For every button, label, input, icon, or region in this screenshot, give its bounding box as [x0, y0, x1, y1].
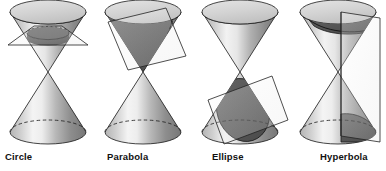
parabola-lower-cone	[105, 72, 181, 144]
label-ellipse: Ellipse	[212, 151, 244, 163]
panel-parabola	[105, 0, 186, 144]
label-circle: Circle	[5, 151, 32, 163]
hyperbola-plane-outline	[341, 12, 380, 142]
ellipse-top-cap-ellipse	[202, 0, 278, 24]
conic-sections-diagram	[0, 0, 386, 171]
parabola-lower-nappe	[105, 72, 181, 144]
panel-circle	[8, 0, 88, 144]
circle-cutting-plane	[8, 26, 88, 45]
hyperbola-cutting-plane	[341, 12, 380, 142]
panel-hyperbola	[300, 0, 380, 144]
circle-plane-outline	[8, 26, 88, 45]
panel-ellipse	[202, 0, 288, 148]
circle-top-cap-ellipse	[10, 0, 86, 24]
label-hyperbola: Hyperbola	[320, 151, 368, 163]
ellipse-upper-nappe	[202, 0, 278, 72]
conic-sections-figure: Circle Parabola Ellipse Hyperbola	[0, 0, 386, 171]
circle-lower-nappe	[10, 72, 86, 144]
circle-lower-cone	[10, 72, 86, 144]
label-parabola: Parabola	[107, 151, 148, 163]
